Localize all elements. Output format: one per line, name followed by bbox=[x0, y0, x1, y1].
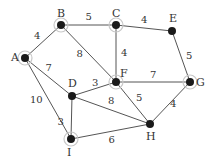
node-C bbox=[112, 21, 120, 29]
node-label-A: A bbox=[10, 51, 20, 64]
node-G bbox=[186, 78, 194, 86]
weighted-graph: 4548457371085436ABCEFGDHI bbox=[0, 0, 215, 164]
edge-C-E bbox=[116, 25, 172, 31]
edge-weight-label: 10 bbox=[30, 94, 43, 105]
node-label-E: E bbox=[169, 12, 177, 25]
node-label-C: C bbox=[112, 7, 120, 20]
edge-weight-label: 8 bbox=[108, 95, 114, 106]
edge-weight-label: 4 bbox=[34, 30, 40, 41]
node-label-F: F bbox=[120, 67, 128, 80]
edge-weight-label: 5 bbox=[136, 92, 142, 103]
node-I bbox=[67, 135, 75, 143]
node-E bbox=[168, 27, 176, 35]
edge-weight-label: 5 bbox=[86, 11, 92, 22]
node-H bbox=[146, 120, 154, 128]
edge-weight-label: 5 bbox=[186, 50, 192, 61]
node-F bbox=[112, 78, 120, 86]
edge-weight-label: 6 bbox=[109, 134, 115, 145]
edge-weight-label: 8 bbox=[77, 48, 83, 59]
node-label-B: B bbox=[57, 7, 65, 20]
node-label-D: D bbox=[68, 77, 77, 90]
node-A bbox=[21, 54, 29, 62]
node-label-I: I bbox=[67, 146, 71, 159]
edge-weight-label: 3 bbox=[92, 77, 98, 88]
edge-weight-label: 7 bbox=[150, 69, 156, 80]
edge-weight-label: 3 bbox=[58, 116, 64, 127]
edge-weight-label: 7 bbox=[46, 62, 52, 73]
edge-weight-label: 4 bbox=[141, 14, 147, 25]
edge-weight-label: 4 bbox=[121, 47, 127, 58]
node-label-G: G bbox=[196, 76, 205, 89]
edge-weight-label: 4 bbox=[170, 98, 176, 109]
node-B bbox=[57, 21, 65, 29]
edge-B-F bbox=[61, 25, 116, 82]
node-label-H: H bbox=[146, 130, 156, 143]
node-D bbox=[68, 92, 76, 100]
